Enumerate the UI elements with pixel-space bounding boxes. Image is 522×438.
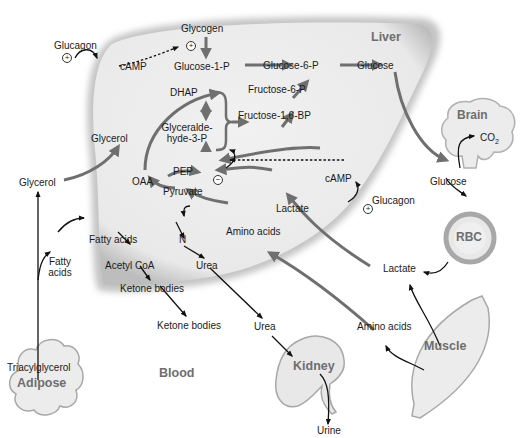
fructose-16-bp-label: Fructose-1,6-BP bbox=[238, 110, 311, 121]
muscle-label: Muscle bbox=[424, 339, 466, 353]
plus-sign-glucagon-top: + bbox=[62, 53, 72, 63]
pyruvate-label: Pyruvate bbox=[163, 186, 202, 197]
glucose-1-p-label: Glucose-1-P bbox=[174, 61, 230, 72]
minus-sign-pk: − bbox=[213, 175, 223, 185]
n-label: N bbox=[179, 234, 186, 245]
glucose-blood-label: Glucose bbox=[430, 176, 467, 187]
glucagon-mid-label: Glucagon bbox=[372, 195, 415, 206]
co2-label: CO2 bbox=[480, 132, 499, 147]
glycogen-label: Glycogen bbox=[181, 23, 223, 34]
glycerol-liver-label: Glycerol bbox=[91, 133, 128, 144]
adipose-label: Adipose bbox=[17, 376, 66, 390]
acetyl-coa-label: Acetyl CoA bbox=[105, 260, 154, 271]
plus-sign-phosphorylase: + bbox=[186, 41, 196, 51]
metabolic-map-diagram: Liver Brain RBC Muscle Kidney Adipose Bl… bbox=[0, 0, 522, 438]
glucose-liver-label: Glucose bbox=[357, 60, 394, 71]
urine-label: Urine bbox=[317, 425, 341, 436]
fructose-6-p-label: Fructose-6-P bbox=[248, 84, 306, 95]
pep-label: PEP bbox=[173, 166, 193, 177]
brain-label: Brain bbox=[457, 108, 488, 122]
glycerol-blood-label: Glycerol bbox=[19, 177, 56, 188]
ketone-bodies-liver-label: Ketone bodies bbox=[120, 283, 184, 294]
glucose-6-p-label: Glucose-6-P bbox=[263, 60, 319, 71]
camp-top-label: cAMP bbox=[120, 61, 147, 72]
glucagon-top-label: Glucagon bbox=[54, 40, 97, 51]
kidney-label: Kidney bbox=[293, 359, 335, 373]
fatty-acids-liver-label: Fatty acids bbox=[89, 234, 137, 245]
amino-acids-liver-label: Amino acids bbox=[226, 226, 280, 237]
amino-acids-blood-label: Amino acids bbox=[357, 321, 411, 332]
plus-sign-glucagon-mid: + bbox=[363, 204, 373, 214]
glyceraldehyde-3-p-label: Glyceralde- hyde-3-P bbox=[156, 122, 218, 144]
ketone-bodies-blood-label: Ketone bodies bbox=[157, 320, 221, 331]
urea-blood-label: Urea bbox=[254, 321, 276, 332]
urea-liver-label: Urea bbox=[196, 260, 218, 271]
camp-mid-label: cAMP bbox=[325, 173, 352, 184]
fatty-acids-blood-label: Fatty acids bbox=[44, 256, 76, 278]
dhap-label: DHAP bbox=[170, 87, 198, 98]
lactate-liver-label: Lactate bbox=[276, 203, 309, 214]
blood-label: Blood bbox=[159, 366, 194, 380]
liver-organ bbox=[87, 17, 440, 292]
lactate-blood-label: Lactate bbox=[383, 263, 416, 274]
kidney-organ bbox=[276, 336, 345, 414]
triacylglycerol-label: Triacylglycerol bbox=[7, 362, 71, 373]
muscle-organ bbox=[412, 296, 489, 418]
liver-label: Liver bbox=[371, 30, 401, 44]
rbc-label: RBC bbox=[456, 230, 482, 244]
diagram-graphics bbox=[0, 0, 522, 438]
oaa-label: OAA bbox=[132, 176, 153, 187]
